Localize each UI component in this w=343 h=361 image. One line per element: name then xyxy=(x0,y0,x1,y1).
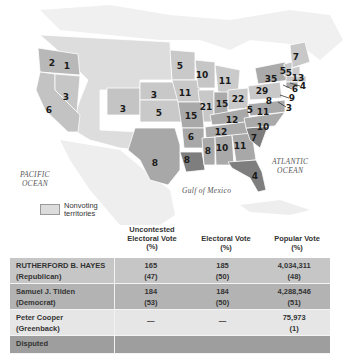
state-ev-label: 6 xyxy=(188,133,194,142)
candidate-cell: Samuel J. Tilden (Democrat) xyxy=(10,284,115,309)
state-ev-label: 22 xyxy=(232,95,245,104)
value: 165 xyxy=(115,261,187,272)
uncontested-cell xyxy=(115,336,187,353)
state-ev-label: 12 xyxy=(226,116,239,125)
state-ev-label: 8 xyxy=(205,147,211,156)
value: 75,973 xyxy=(258,313,330,324)
percent: (50) xyxy=(187,298,259,309)
results-table: RUTHERFORD B. HAYES (Republican) 165 (47… xyxy=(10,258,330,354)
state-ev-label: 5 xyxy=(247,106,253,115)
state-ev-label: 10 xyxy=(257,123,270,132)
gulf-of-mexico-label: Gulf of Mexico xyxy=(182,186,231,195)
map-legend: Nonvoting territories xyxy=(40,202,98,218)
percent: (48) xyxy=(258,272,330,283)
state-ev-label: 11 xyxy=(219,77,232,86)
state-ev-label: 8 xyxy=(152,159,158,168)
header-line: (%) xyxy=(201,244,250,253)
percent: (50) xyxy=(187,272,259,283)
header-line: (%) xyxy=(127,243,176,252)
percent: (53) xyxy=(115,298,187,309)
value: 184 xyxy=(115,287,187,298)
table-row-cooper: Peter Cooper (Greenback) — — 75,973 (1) xyxy=(10,310,330,336)
header-popular-vote: Popular Vote (%) xyxy=(274,235,320,252)
legend-label-line: territories xyxy=(64,210,98,218)
table-row-tilden: Samuel J. Tilden (Democrat) 184 (53) 184… xyxy=(10,284,330,310)
value: 185 xyxy=(187,261,259,272)
ocean-label-line: PACIFIC xyxy=(20,170,50,179)
candidate-cell: RUTHERFORD B. HAYES (Republican) xyxy=(10,258,115,283)
candidate-cell: Disputed xyxy=(10,336,115,353)
state-ev-label: 9 xyxy=(289,94,295,103)
state-ev-label: 3 xyxy=(286,104,292,113)
state-ev-label: 11 xyxy=(234,142,247,151)
popular-cell: 4,034,311 (48) xyxy=(258,258,330,283)
candidate-name: Disputed xyxy=(16,339,114,350)
nonvoting-territory-swatch xyxy=(40,204,60,215)
ocean-label-line: OCEAN xyxy=(20,179,50,188)
state-ev-label: 4 xyxy=(252,172,258,181)
state-ev-label: 3 xyxy=(120,105,126,114)
state-ev-label: 29 xyxy=(256,87,269,96)
value: 4,034,311 xyxy=(258,261,330,272)
state-ev-label: 10 xyxy=(196,71,209,80)
candidate-party: (Greenback) xyxy=(16,324,114,335)
popular-cell: 4,288,546 (51) xyxy=(258,284,330,309)
state-ev-label: 5 xyxy=(156,109,162,118)
pacific-ocean-label: PACIFIC OCEAN xyxy=(20,170,50,188)
value: — xyxy=(187,316,259,327)
uncontested-cell: — xyxy=(115,310,187,335)
state-ev-label: 12 xyxy=(215,128,228,137)
candidate-name: Peter Cooper xyxy=(16,313,114,324)
uncontested-cell: 165 (47) xyxy=(115,258,187,283)
state-ev-label: 11 xyxy=(179,89,192,98)
state-ev-label: 21 xyxy=(200,103,213,112)
state-ev-label: 7 xyxy=(293,53,299,62)
state-ev-label: 3 xyxy=(151,91,157,100)
percent: (51) xyxy=(258,298,330,309)
state-ev-label: 5 xyxy=(177,62,183,71)
percent: (47) xyxy=(115,272,187,283)
candidate-name: Samuel J. Tilden xyxy=(16,287,114,298)
state-ev-label: 15 xyxy=(216,100,229,109)
popular-cell xyxy=(258,336,330,353)
candidate-name: RUTHERFORD B. HAYES xyxy=(16,261,114,272)
state-ev-label: 7 xyxy=(251,134,257,143)
state-ev-label: 6 xyxy=(46,106,52,115)
state-ev-label: 2 xyxy=(49,59,55,68)
value: 184 xyxy=(187,287,259,298)
value: — xyxy=(115,316,187,327)
state-ev-label: 1 xyxy=(64,62,70,71)
electoral-cell: — xyxy=(187,310,259,335)
atlantic-ocean-label: ATLANTIC OCEAN xyxy=(272,157,308,175)
election-map: 2 1 3 6 3 3 5 8 5 10 11 11 21 15 22 15 1… xyxy=(0,0,343,225)
state-ev-label: 4 xyxy=(300,82,306,91)
legend-label: Nonvoting territories xyxy=(64,202,98,218)
table-row-hayes: RUTHERFORD B. HAYES (Republican) 165 (47… xyxy=(10,258,330,284)
percent: (1) xyxy=(258,324,330,335)
uncontested-cell: 184 (53) xyxy=(115,284,187,309)
electoral-cell: 184 (50) xyxy=(187,284,259,309)
state-ev-label: 10 xyxy=(216,144,229,153)
state-ev-label: 35 xyxy=(265,75,278,84)
electoral-cell xyxy=(187,336,259,353)
ocean-label-line: OCEAN xyxy=(272,166,308,175)
header-electoral-vote: Electoral Vote (%) xyxy=(201,235,250,252)
results-table-header: Uncontested Electoral Vote (%) Electoral… xyxy=(0,226,343,256)
ocean-label-line: ATLANTIC xyxy=(272,157,308,166)
electoral-cell: 185 (50) xyxy=(187,258,259,283)
state-ev-label: 11 xyxy=(257,108,270,117)
header-uncontested-electoral-vote: Uncontested Electoral Vote (%) xyxy=(127,226,176,252)
candidate-party: (Republican) xyxy=(16,272,114,283)
table-row-disputed: Disputed xyxy=(10,336,330,354)
candidate-cell: Peter Cooper (Greenback) xyxy=(10,310,115,335)
state-ev-label: 8 xyxy=(266,97,272,106)
state-ev-label: 8 xyxy=(184,156,190,165)
state-ev-label: 3 xyxy=(63,93,69,102)
popular-cell: 75,973 (1) xyxy=(258,310,330,335)
header-line: (%) xyxy=(274,244,320,253)
candidate-party: (Democrat) xyxy=(16,298,114,309)
state-ev-label: 15 xyxy=(185,112,198,121)
value: 4,288,546 xyxy=(258,287,330,298)
